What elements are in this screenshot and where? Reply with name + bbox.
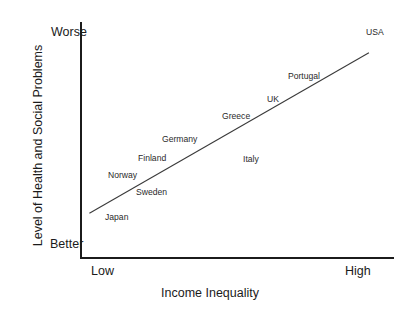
y-axis-title: Level of Health and Social Problems: [32, 46, 45, 246]
data-label-uk: UK: [267, 95, 279, 104]
data-label-norway: Norway: [108, 171, 137, 180]
x-axis-right-label: High: [345, 265, 371, 278]
trendline: [89, 53, 369, 214]
scatter-chart: Worse Better Low High Level of Health an…: [0, 0, 407, 310]
data-label-finland: Finland: [138, 154, 166, 163]
data-label-japan: Japan: [105, 213, 128, 222]
data-label-portugal: Portugal: [288, 72, 320, 81]
data-label-usa: USA: [366, 28, 384, 37]
x-axis-line: [80, 257, 394, 259]
x-axis-left-label: Low: [91, 265, 114, 278]
data-label-sweden: Sweden: [136, 188, 167, 197]
data-label-greece: Greece: [222, 112, 250, 121]
data-label-germany: Germany: [162, 135, 197, 144]
x-axis-title: Income Inequality: [110, 287, 310, 300]
y-axis-top-label: Worse: [51, 26, 87, 39]
y-axis-line: [80, 22, 82, 259]
data-label-italy: Italy: [243, 155, 259, 164]
y-axis-bottom-label: Better: [50, 238, 83, 251]
plot-area: Worse Better Low High Level of Health an…: [0, 0, 407, 310]
